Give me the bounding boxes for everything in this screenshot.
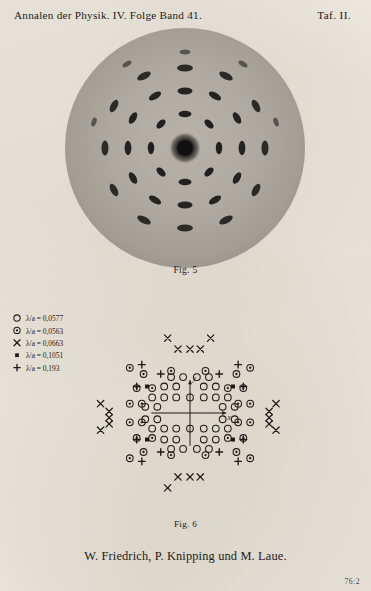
spot-cross [106,421,112,427]
spot-circle-dot [149,385,156,392]
spot-open-circle [206,374,213,381]
spot-cross [106,414,112,420]
figure-5 [0,26,371,278]
spot-open-circle [173,425,180,432]
spot-plus [240,383,247,390]
spot-cross [164,485,170,491]
spot-open-circle [14,315,20,321]
spot-circle-dot [233,371,240,378]
spot-filled-square [231,384,235,388]
spot-circle-dot [126,400,133,407]
spot-open-circle [219,416,226,423]
legend-label-1: λ/a = 0,0563 [26,327,63,336]
spot-open-circle [212,425,219,432]
spot-cross [266,408,272,414]
spot-circle-dot [126,364,133,371]
spot-circle-dot [247,455,254,462]
spot-open-circle [173,383,180,390]
spot-circle-dot [149,435,156,442]
figure-6: λ/a = 0,0577λ/a = 0,0563λ/a = 0,0663λ/a … [0,305,371,520]
spot-open-circle [224,394,231,401]
spot-plus [14,364,20,370]
spot-open-circle [212,436,219,443]
figure-6-legend: λ/a = 0,0577λ/a = 0,0563λ/a = 0,0663λ/a … [14,314,64,373]
spot-cross [197,474,203,480]
spot-open-circle [200,425,207,432]
spot-open-circle [154,416,161,423]
spot-open-circle [200,394,207,401]
spot-plus [133,436,140,443]
spot-circle-dot [247,400,254,407]
spot-circle-dot [168,368,175,375]
spot-plus [235,458,242,465]
figure-6-caption: Fig. 6 [0,519,371,529]
spot-circle-dot [126,455,133,462]
spot-filled-square [145,384,149,388]
figure-6-axes: xy [151,374,231,446]
figure-6-svg: λ/a = 0,0577λ/a = 0,0563λ/a = 0,0663λ/a … [0,305,371,520]
spot-cross [273,427,279,433]
spot-open-circle [154,403,161,410]
page-header: Annalen der Physik. IV. Folge Band 41. T… [0,9,371,25]
spot-cross [187,346,193,352]
spot-open-circle [168,374,175,381]
spot-open-circle [161,425,168,432]
spot-plus [235,361,242,368]
spot-open-circle [149,425,156,432]
spot-open-circle [219,403,226,410]
spot-circle-dot [247,419,254,426]
spot-cross [14,340,20,346]
spot-cross [175,474,181,480]
spot-cross [164,335,170,341]
spot-open-circle [161,394,168,401]
spot-plus [216,371,223,378]
spot-open-circle [173,394,180,401]
spot-plus [138,361,145,368]
spot-cross [197,346,203,352]
spot-plus [157,371,164,378]
laue-photograph-svg [60,26,310,276]
spot-plus [216,449,223,456]
spot-plus [133,383,140,390]
spot-circle-dot [224,435,231,442]
axis-x-arrow [222,411,226,415]
legend-label-0: λ/a = 0,0577 [26,314,63,323]
spot-open-circle [173,436,180,443]
laue-photograph [60,26,310,276]
spot-open-circle [206,446,213,453]
spot-cross [187,474,193,480]
spot-open-circle [200,383,207,390]
plate-corner-mark: 76:2 [344,577,360,586]
legend-label-4: λ/a = 0,193 [26,364,60,373]
spot-filled-square [145,438,149,442]
spot-open-circle [180,446,187,453]
spot-open-circle [149,394,156,401]
spot-circle-dot [168,452,175,459]
spot-open-circle [212,394,219,401]
spot-filled-square [231,438,235,442]
spot-circle-dot [14,327,20,333]
spot-filled-square [15,353,19,357]
axis-x-label: x [227,413,232,422]
central-beam-core [178,141,193,156]
spot-open-circle [161,383,168,390]
spot-cross [207,335,213,341]
spot-circle-dot [233,449,240,456]
spot-cross [273,400,279,406]
spot-cross [97,400,103,406]
spot-open-circle [161,436,168,443]
author-line: W. Friedrich, P. Knipping und M. Laue. [0,549,371,564]
spot-open-circle [168,446,175,453]
spot-cross [97,427,103,433]
spot-plus [157,449,164,456]
spot-circle-dot [202,368,209,375]
spot-open-circle [180,374,187,381]
spot-circle-dot [126,419,133,426]
axis-y-arrow [188,380,192,384]
spot-circle-dot [224,385,231,392]
spot-open-circle [194,446,201,453]
spot-cross [266,421,272,427]
spot-circle-dot [247,364,254,371]
spot-cross [106,408,112,414]
legend-label-3: λ/a = 0,1051 [26,351,63,360]
